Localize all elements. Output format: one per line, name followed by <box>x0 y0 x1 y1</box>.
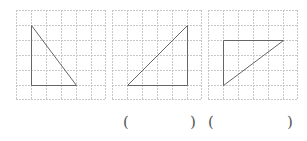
grid-triangle-figure-1 <box>16 10 106 100</box>
answer-1-close-paren: ) <box>190 113 196 131</box>
grid-1 <box>16 10 106 100</box>
grid-triangle-figure-3 <box>208 10 298 100</box>
grid-2 <box>112 10 202 100</box>
grid-3 <box>208 10 298 100</box>
grid-triangle-figure-2 <box>112 10 202 100</box>
answer-1-open-paren: ( <box>123 113 129 131</box>
answer-2-close-paren: ) <box>287 113 293 131</box>
answer-2-open-paren: ( <box>208 113 214 131</box>
